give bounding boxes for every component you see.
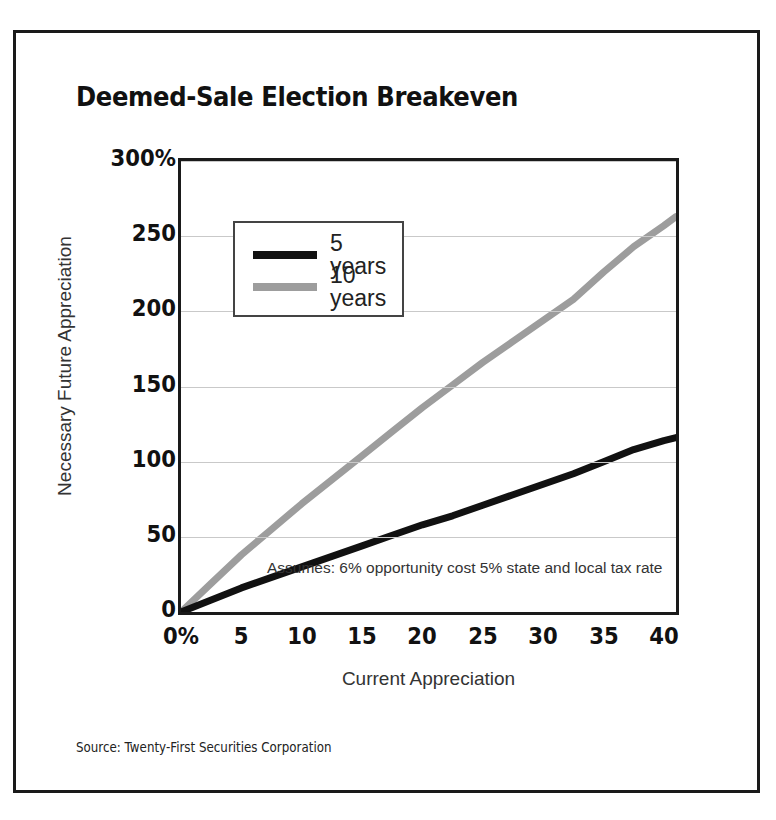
gridline xyxy=(181,462,676,463)
y-axis-tick-labels: 050100150200250300% xyxy=(81,158,176,615)
legend: 5 years 10 years xyxy=(233,221,404,317)
legend-item-10-years: 10 years xyxy=(253,271,402,303)
figure-frame: Deemed-Sale Election Breakeven 050100150… xyxy=(13,30,760,793)
assumption-annotation: Assumes: 6% opportunity cost 5% state an… xyxy=(267,559,662,577)
series-line-5-years xyxy=(181,438,676,612)
gridline xyxy=(181,161,676,162)
x-tick-label: 40 xyxy=(649,623,678,649)
y-tick-label: 50 xyxy=(89,521,176,547)
plot-area: 5 years 10 years Assumes: 6% opportunity… xyxy=(178,158,679,615)
legend-swatch-5-years xyxy=(253,251,317,259)
x-tick-label: 0% xyxy=(163,623,199,649)
y-tick-label: 200 xyxy=(89,295,176,321)
page-title: Deemed-Sale Election Breakeven xyxy=(76,81,580,112)
legend-swatch-10-years xyxy=(253,283,317,291)
x-tick-label: 30 xyxy=(528,623,557,649)
x-axis-tick-labels: 0%510152025303540 xyxy=(178,623,679,657)
x-tick-label: 35 xyxy=(589,623,618,649)
x-tick-label: 20 xyxy=(408,623,437,649)
y-tick-label: 300% xyxy=(89,145,176,171)
x-axis-title: Current Appreciation xyxy=(178,668,679,690)
y-tick-label: 250 xyxy=(89,220,176,246)
gridline xyxy=(181,537,676,538)
y-tick-label: 150 xyxy=(89,371,176,397)
x-tick-label: 15 xyxy=(347,623,376,649)
x-tick-label: 25 xyxy=(468,623,497,649)
legend-label-10-years: 10 years xyxy=(330,264,402,310)
gridline xyxy=(181,387,676,388)
x-tick-label: 10 xyxy=(287,623,316,649)
source-note: Source: Twenty-First Securities Corporat… xyxy=(76,739,331,755)
y-axis-title: Necessary Future Appreciation xyxy=(54,221,76,511)
y-tick-label: 0 xyxy=(89,596,176,622)
x-tick-label: 5 xyxy=(234,623,249,649)
y-tick-label: 100 xyxy=(89,446,176,472)
